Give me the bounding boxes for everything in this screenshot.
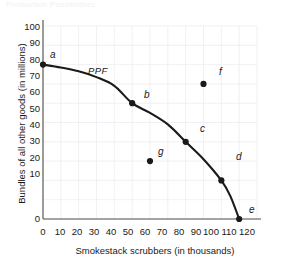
- point-label-c: c: [200, 124, 205, 134]
- axis-lines: [43, 20, 261, 219]
- point-label-b: b: [144, 90, 150, 100]
- point-label-d: d: [236, 152, 242, 162]
- data-point-d: [218, 177, 224, 183]
- point-label-a: a: [50, 50, 56, 60]
- data-point-a: [40, 62, 46, 68]
- data-point-b: [129, 100, 135, 106]
- gridlines: [43, 26, 257, 219]
- data-point-e: [236, 216, 242, 222]
- point-label-g: g: [158, 147, 164, 157]
- data-point-g: [147, 158, 153, 164]
- plot-canvas: [0, 0, 289, 263]
- point-label-e: e: [249, 205, 255, 215]
- ppf-chart-figure: Production Possibilities Bundles of all …: [0, 0, 289, 263]
- data-point-f: [200, 81, 206, 87]
- data-point-c: [183, 139, 189, 145]
- point-label-f: f: [219, 67, 222, 77]
- ppf-curve-label: PPF: [88, 65, 108, 76]
